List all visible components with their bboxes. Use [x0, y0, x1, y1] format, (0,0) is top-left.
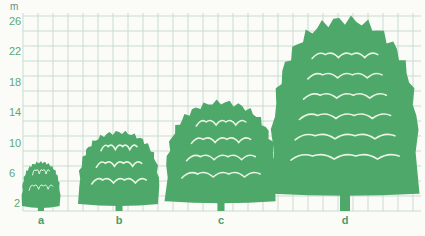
y-tick-6: 6	[9, 167, 23, 179]
tree-label-d: d	[335, 214, 355, 226]
y-tick-14: 14	[9, 106, 23, 118]
tree-c	[165, 100, 277, 212]
tree-label-c: c	[211, 214, 231, 226]
tree-height-diagram: m 26 22 18 14 10 6 2 a b c d	[0, 0, 425, 236]
grid	[0, 0, 425, 236]
tree-b	[78, 131, 159, 211]
y-tick-18: 18	[9, 76, 23, 88]
tree-label-b: b	[109, 214, 129, 226]
y-axis-unit: m	[10, 1, 18, 12]
y-tick-26: 26	[9, 15, 23, 27]
y-tick-22: 22	[9, 45, 23, 57]
tree-label-a: a	[31, 214, 51, 226]
y-tick-2: 2	[14, 197, 28, 209]
y-tick-10: 10	[9, 137, 23, 149]
